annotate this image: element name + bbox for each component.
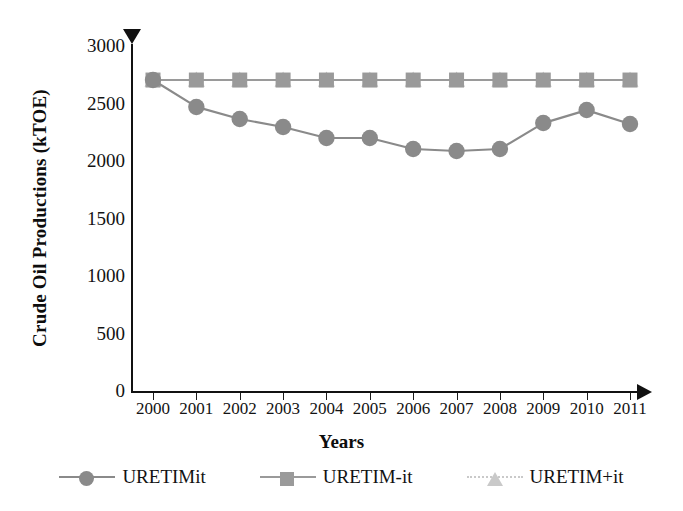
circle-marker [145, 72, 161, 88]
circle-marker [79, 471, 94, 486]
square-marker [623, 73, 638, 88]
circle-marker [275, 119, 291, 135]
legend-item-uretim-it[interactable]: URETIM+it [467, 466, 624, 488]
series-line [153, 80, 630, 151]
circle-marker [405, 141, 421, 157]
circle-marker [578, 102, 594, 118]
square-marker [492, 73, 507, 88]
legend-swatch [467, 468, 523, 486]
circle-marker [535, 115, 551, 131]
chart-figure: Crude Oil Productions (kTOE) 05001000150… [0, 0, 683, 511]
legend-item-uretimit[interactable]: URETIMit [59, 466, 205, 488]
circle-marker [232, 111, 248, 127]
square-marker [406, 73, 421, 88]
square-marker [276, 73, 291, 88]
circle-marker [492, 141, 508, 157]
legend-swatch [260, 468, 316, 486]
circle-marker [318, 130, 334, 146]
square-marker [449, 73, 464, 88]
legend-swatch [59, 468, 115, 486]
legend-label: URETIMit [122, 466, 205, 488]
chart-legend: URETIMitURETIM-itURETIM+it [0, 466, 683, 488]
x-axis-title: Years [0, 431, 683, 453]
square-marker [579, 73, 594, 88]
square-marker [536, 73, 551, 88]
circle-marker [362, 130, 378, 146]
square-marker [189, 73, 204, 88]
series-URETIM-it [146, 73, 638, 88]
square-marker [362, 73, 377, 88]
triangle-marker [487, 472, 503, 486]
legend-label: URETIM-it [323, 466, 413, 488]
square-marker [280, 472, 294, 486]
circle-marker [622, 116, 638, 132]
square-marker [232, 73, 247, 88]
legend-item-uretim-it[interactable]: URETIM-it [260, 466, 413, 488]
circle-marker [448, 143, 464, 159]
circle-marker [188, 99, 204, 115]
series-URETIMit [145, 72, 638, 159]
legend-label: URETIM+it [530, 466, 624, 488]
square-marker [319, 73, 334, 88]
